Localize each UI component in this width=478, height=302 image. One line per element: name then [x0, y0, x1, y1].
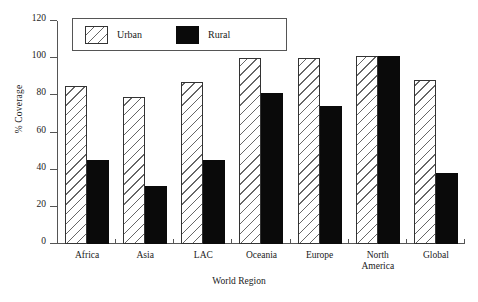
y-axis-tick: 40 [50, 169, 57, 170]
x-axis-tick [349, 239, 407, 244]
hatch-swatch [85, 26, 108, 44]
bar-rural [145, 186, 167, 244]
legend-item: Rural [176, 26, 230, 44]
y-axis-title: % Coverage [14, 54, 24, 164]
x-axis-tick-label: Europe [291, 250, 349, 272]
x-axis-tick [291, 239, 349, 244]
y-axis-tick: 80 [50, 94, 57, 95]
bar-group [291, 21, 349, 244]
x-axis-tick-labels: AfricaAsiaLACOceaniaEuropeNorthAmericaGl… [58, 250, 465, 272]
legend-label: Rural [208, 29, 230, 40]
y-axis-tick: 20 [50, 206, 57, 207]
y-axis-tick-label: 40 [37, 162, 47, 172]
x-axis-tick-label: Africa [58, 250, 116, 272]
y-axis-tick: 100 [50, 57, 57, 58]
bar-urban [123, 97, 145, 244]
x-axis-ticks [58, 239, 465, 244]
bar-chart: % Coverage 020406080100120 AfricaAsiaLAC… [0, 0, 478, 302]
bar-rural [203, 160, 225, 244]
y-axis-tick-label: 0 [41, 236, 46, 246]
bar-urban [239, 58, 261, 244]
y-axis-tick: 120 [50, 20, 57, 21]
y-axis-tick-label: 120 [32, 13, 46, 23]
x-axis-tick-label: Global [407, 250, 465, 272]
y-axis-tick: 60 [50, 132, 57, 133]
x-axis-tick [116, 239, 174, 244]
bar-rural [378, 56, 400, 244]
y-axis-tick-label: 20 [37, 199, 47, 209]
x-axis-title: World Region [0, 276, 478, 286]
y-axis-tick-label: 60 [37, 125, 47, 135]
legend-item: Urban [85, 26, 142, 44]
y-axis-tick: 0 [50, 243, 57, 244]
x-axis-tick-label: Asia [116, 250, 174, 272]
y-axis-tick-label: 100 [32, 50, 46, 60]
bar-rural [261, 93, 283, 244]
bar-urban [356, 56, 378, 244]
bar-urban [65, 86, 87, 244]
bar-group [174, 21, 232, 244]
bar-group [349, 21, 407, 244]
x-axis-tick [58, 239, 116, 244]
bar-rural [436, 173, 458, 244]
solid-black-swatch [176, 26, 199, 44]
bar-rural [320, 106, 342, 244]
bar-urban [414, 80, 436, 244]
bar-urban [298, 58, 320, 244]
legend-label: Urban [117, 29, 142, 40]
bar-groups [58, 21, 465, 244]
plot-area: 020406080100120 [57, 21, 465, 244]
bar-group [232, 21, 290, 244]
x-axis-tick-label: LAC [174, 250, 232, 272]
bar-group [116, 21, 174, 244]
bar-group [407, 21, 465, 244]
x-axis-tick-label: Oceania [232, 250, 290, 272]
bar-urban [181, 82, 203, 244]
x-axis-tick [174, 239, 232, 244]
x-axis-tick [232, 239, 290, 244]
bar-group [58, 21, 116, 244]
y-axis-tick-label: 80 [37, 87, 47, 97]
x-axis-tick [407, 239, 465, 244]
x-axis-tick-label: NorthAmerica [349, 250, 407, 272]
chart-legend: UrbanRural [72, 18, 287, 51]
bar-rural [87, 160, 109, 244]
